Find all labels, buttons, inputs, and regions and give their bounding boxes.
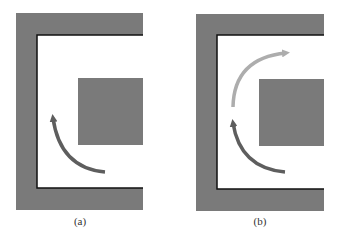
obstacle-b: [259, 79, 324, 146]
panel-b-label: (b): [240, 215, 280, 227]
panel-a-label: (a): [60, 215, 100, 227]
obstacle-a: [78, 78, 143, 145]
panel-a: [16, 13, 143, 210]
diagram-canvas: [0, 0, 338, 239]
panel-b: [196, 14, 324, 211]
